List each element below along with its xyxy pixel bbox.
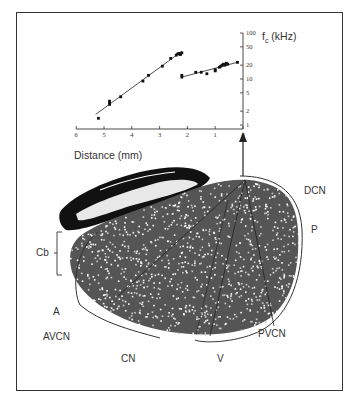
stipple-dot	[283, 290, 285, 292]
stipple-dot	[119, 229, 121, 231]
stipple-dot	[205, 316, 207, 318]
stipple-dot	[235, 260, 237, 262]
stipple-dot	[181, 252, 183, 254]
stipple-dot	[247, 233, 249, 235]
stipple-dot	[239, 195, 241, 197]
stipple-dot	[215, 262, 217, 264]
stipple-dot	[178, 322, 180, 324]
stipple-dot	[268, 313, 270, 315]
stipple-dot	[252, 266, 254, 268]
stipple-dot	[70, 258, 72, 260]
stipple-dot	[272, 239, 274, 241]
stipple-dot	[248, 239, 250, 241]
stipple-dot	[137, 231, 139, 233]
stipple-dot	[139, 324, 141, 326]
stipple-dot	[170, 325, 172, 327]
stipple-dot	[229, 318, 231, 320]
stipple-dot	[272, 313, 274, 315]
stipple-dot	[278, 259, 280, 261]
stipple-dot	[275, 222, 277, 224]
stipple-dot	[189, 305, 191, 307]
stipple-dot	[294, 226, 296, 228]
stipple-dot	[189, 237, 191, 239]
stipple-dot	[177, 210, 179, 212]
stipple-dot	[212, 298, 214, 300]
stipple-dot	[225, 303, 227, 305]
stipple-dot	[267, 218, 269, 220]
stipple-dot	[211, 254, 213, 256]
stipple-dot	[266, 206, 268, 208]
stipple-dot	[184, 261, 186, 263]
stipple-dot	[252, 287, 254, 289]
stipple-dot	[126, 257, 128, 259]
stipple-dot	[94, 279, 96, 281]
stipple-dot	[291, 219, 293, 221]
stipple-dot	[147, 230, 149, 232]
stipple-dot	[115, 220, 117, 222]
stipple-dot	[293, 275, 295, 277]
stipple-dot	[207, 266, 209, 268]
stipple-dot	[194, 262, 196, 264]
stipple-dot	[217, 253, 219, 255]
stipple-dot	[264, 307, 266, 309]
stipple-dot	[92, 251, 94, 253]
stipple-dot	[278, 282, 280, 284]
stipple-dot	[190, 226, 192, 228]
stipple-dot	[186, 285, 188, 287]
stipple-dot	[138, 226, 140, 228]
y-tick-label: 20	[246, 61, 253, 68]
stipple-dot	[251, 300, 253, 302]
stipple-dot	[119, 290, 121, 292]
stipple-dot	[259, 235, 261, 237]
stipple-dot	[177, 206, 179, 208]
stipple-dot	[136, 258, 138, 260]
stipple-dot	[173, 295, 175, 297]
stipple-dot	[248, 186, 250, 188]
stipple-dot	[240, 275, 242, 277]
stipple-dot	[128, 292, 130, 294]
stipple-dot	[100, 266, 102, 268]
stipple-dot	[237, 271, 239, 273]
stipple-dot	[152, 225, 154, 227]
stipple-dot	[180, 287, 182, 289]
stipple-dot	[252, 210, 254, 212]
stipple-dot	[123, 276, 125, 278]
stipple-dot	[182, 272, 184, 274]
stipple-dot	[272, 196, 274, 198]
stipple-dot	[240, 205, 242, 207]
stipple-dot	[239, 296, 241, 298]
stipple-dot	[103, 303, 105, 305]
stipple-dot	[281, 220, 283, 222]
stipple-dot	[243, 206, 245, 208]
stipple-dot	[120, 258, 122, 260]
stipple-dot	[153, 305, 155, 307]
stipple-dot	[106, 295, 108, 297]
stipple-dot	[142, 302, 144, 304]
stipple-dot	[288, 283, 290, 285]
stipple-dot	[245, 197, 247, 199]
stipple-dot	[161, 275, 163, 277]
stipple-dot	[111, 277, 113, 279]
stipple-dot	[145, 222, 147, 224]
stipple-dot	[186, 272, 188, 274]
stipple-dot	[193, 306, 195, 308]
stipple-dot	[88, 234, 90, 236]
stipple-dot	[154, 214, 156, 216]
stipple-dot	[143, 305, 145, 307]
stipple-dot	[93, 276, 95, 278]
data-point	[119, 95, 122, 98]
stipple-dot	[120, 273, 122, 275]
stipple-dot	[119, 234, 121, 236]
stipple-dot	[176, 288, 178, 290]
stipple-dot	[262, 302, 264, 304]
data-point	[108, 100, 111, 103]
stipple-dot	[204, 334, 206, 336]
stipple-dot	[89, 241, 91, 243]
stipple-dot	[209, 245, 211, 247]
stipple-dot	[102, 250, 104, 252]
stipple-dot	[201, 271, 203, 273]
stipple-dot	[111, 264, 113, 266]
stipple-dot	[174, 325, 176, 327]
stipple-dot	[218, 307, 220, 309]
stipple-dot	[275, 270, 277, 272]
